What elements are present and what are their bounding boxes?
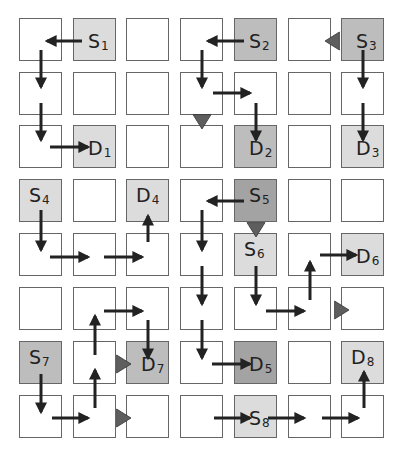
arrow-overlay: [0, 0, 404, 456]
triangle-down-icon: [193, 115, 211, 129]
triangle-right-icon: [117, 355, 131, 373]
triangle-down-icon: [247, 223, 265, 237]
triangle-left-icon: [325, 32, 339, 50]
triangle-right-icon: [117, 409, 131, 427]
triangle-right-icon: [335, 301, 349, 319]
